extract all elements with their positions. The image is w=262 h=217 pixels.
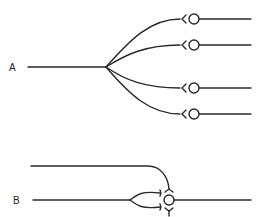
target-cell-icon [164,195,174,205]
target-cell-icon [189,40,199,50]
fork-branch-upper [130,192,160,200]
axon-branch-2 [106,45,180,67]
terminal-icon [182,15,186,23]
synapse-3 [182,83,251,93]
fork-branch-lower [130,200,160,208]
panel-a-label: A [9,62,16,73]
panel-b-label: B [13,195,20,206]
target-cell-icon [189,109,199,119]
panel-b: B [13,166,251,216]
terminal-icon [182,41,186,49]
synapse-1 [182,14,251,24]
terminal-icon [182,110,186,118]
axon-branch-3 [106,67,180,88]
terminal-icon [182,84,186,92]
target-cell-icon [189,83,199,93]
upper-input-axon [31,166,169,189]
synapse-4 [182,109,251,119]
diagram-canvas: A B [0,0,262,217]
terminal-top-icon [165,189,173,192]
panel-a: A [9,14,251,119]
synapse-2 [182,40,251,50]
target-cell-icon [189,14,199,24]
